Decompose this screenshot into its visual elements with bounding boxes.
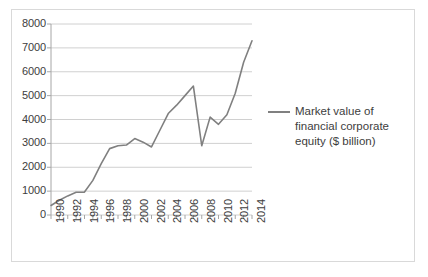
legend-label: Market value of financial corporate equi…: [295, 104, 403, 149]
x-axis-tick-label: 2000: [139, 199, 150, 223]
x-axis-tick-label: 2008: [206, 199, 217, 223]
gridlines-group: [47, 24, 252, 215]
y-axis-tick-label: 0: [10, 209, 46, 220]
y-axis-tick-label: 6000: [10, 66, 46, 77]
y-axis-tick-label: 1000: [10, 185, 46, 196]
y-axis-tick-label: 2000: [10, 161, 46, 172]
y-axis-tick-label: 8000: [10, 18, 46, 29]
x-axis-tick-label: 1992: [72, 199, 83, 223]
x-axis-tick-label: 1998: [122, 199, 133, 223]
x-axis-tick-label: 1994: [89, 199, 100, 223]
y-axis-tick-label: 7000: [10, 42, 46, 53]
x-axis-tick-label: 2006: [189, 199, 200, 223]
chart-legend: Market value of financial corporate equi…: [268, 104, 408, 149]
x-axis-tick-label: 2010: [223, 199, 234, 223]
x-axis-tick-label: 2004: [172, 199, 183, 223]
x-axis-tick-label: 2002: [156, 199, 167, 223]
x-axis-tick-label: 1996: [105, 199, 116, 223]
x-axis-tick-label: 1990: [55, 199, 66, 223]
series-line-market-value: [51, 41, 252, 206]
x-axis-tick-label: 2014: [256, 199, 267, 223]
legend-swatch-icon: [268, 111, 290, 113]
y-axis-tick-label: 5000: [10, 90, 46, 101]
chart-container: 800070006000500040003000200010000 199019…: [0, 0, 428, 277]
y-axis-tick-label: 4000: [10, 114, 46, 125]
x-axis-tick-label: 2012: [239, 199, 250, 223]
y-axis-tick-label: 3000: [10, 137, 46, 148]
